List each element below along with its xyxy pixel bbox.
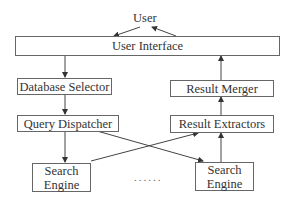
user-interface-label: User Interface	[112, 39, 183, 53]
query-dispatcher-label: Query Dispatcher	[24, 117, 113, 131]
result-merger-node: Result Merger	[170, 80, 274, 97]
search-engine-right-node: Search Engine	[195, 162, 254, 191]
query-dispatcher-node: Query Dispatcher	[17, 115, 119, 132]
result-extractors-label: Result Extractors	[179, 117, 265, 131]
user-label: User	[133, 11, 157, 26]
result-merger-label: Result Merger	[186, 82, 258, 96]
result-extractors-node: Result Extractors	[170, 115, 274, 133]
search-engine-left-label-line2: Engine	[44, 178, 79, 192]
database-selector-label: Database Selector	[20, 80, 110, 94]
search-engine-left-label-line1: Search	[44, 164, 78, 178]
user-interface-node: User Interface	[15, 36, 280, 56]
search-engine-right-label-line1: Search	[207, 163, 241, 177]
ellipsis-more-engines: ......	[134, 171, 163, 183]
search-engine-left-node: Search Engine	[32, 163, 91, 192]
search-engine-right-label-line2: Engine	[207, 177, 242, 191]
database-selector-node: Database Selector	[17, 78, 112, 95]
